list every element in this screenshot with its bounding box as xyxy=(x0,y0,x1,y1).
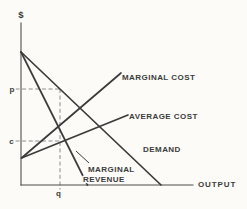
marginal-cost-line xyxy=(22,73,122,158)
price-p-label: p xyxy=(10,85,15,94)
average-cost-label: AVERAGE COST xyxy=(129,112,198,121)
marginal-revenue-leader-line xyxy=(76,151,89,163)
economics-diagram: $ OUTPUT MARGINAL COST AVERAGE COST DEMA… xyxy=(0,0,247,209)
average-cost-line xyxy=(22,115,129,158)
demand-label: DEMAND xyxy=(143,145,181,154)
marginal-revenue-label-line1: MARGINAL xyxy=(88,165,135,174)
marginal-revenue-line xyxy=(21,52,88,185)
marginal-revenue-label-line2: REVENUE xyxy=(83,175,125,184)
quantity-q-label: q xyxy=(56,189,61,198)
y-axis-dollar-label: $ xyxy=(18,9,24,20)
scanned-economics-figure: $ OUTPUT MARGINAL COST AVERAGE COST DEMA… xyxy=(0,0,247,209)
x-axis-output-label: OUTPUT xyxy=(198,180,236,189)
cost-c-label: c xyxy=(9,137,14,146)
marginal-cost-label: MARGINAL COST xyxy=(122,73,195,82)
